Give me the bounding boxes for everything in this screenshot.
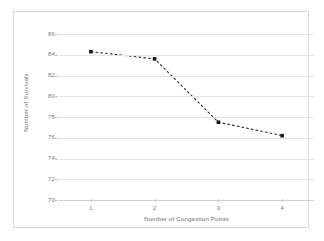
- y-tick-mark: [55, 96, 58, 97]
- y-axis-tick-labels: 868482807876747270: [27, 34, 55, 200]
- x-tick-mark: [91, 199, 92, 202]
- y-gridline: [59, 55, 314, 56]
- y-tick-mark: [55, 200, 58, 201]
- x-tick-label: 2: [145, 204, 165, 212]
- y-gridline: [59, 117, 314, 118]
- y-tick-label: 70: [29, 197, 55, 204]
- x-tick-label: 1: [81, 204, 101, 212]
- y-axis-title: Number of Survivals: [22, 43, 29, 163]
- x-tick-label: 3: [208, 204, 228, 212]
- y-tick-mark: [55, 55, 58, 56]
- x-axis-tick-labels: 1234: [59, 202, 314, 214]
- y-tick-label: 80: [29, 93, 55, 100]
- x-axis-title: Number of Congestion Points: [59, 215, 314, 222]
- chart-frame: 868482807876747270 1234 Number of Conges…: [13, 11, 309, 228]
- y-gridline: [59, 159, 314, 160]
- y-tick-label: 78: [29, 114, 55, 121]
- y-tick-label: 86: [29, 31, 55, 38]
- data-point-marker: [153, 57, 157, 61]
- y-gridline: [59, 96, 314, 97]
- y-gridline: [59, 200, 314, 201]
- y-tick-mark: [55, 34, 58, 35]
- chart-figure: 868482807876747270 1234 Number of Conges…: [0, 0, 324, 241]
- y-tick-mark: [55, 159, 58, 160]
- y-tick-label: 74: [29, 155, 55, 162]
- y-tick-label: 72: [29, 176, 55, 183]
- plot-area: [59, 34, 314, 200]
- y-gridline: [59, 179, 314, 180]
- y-gridline: [59, 138, 314, 139]
- y-tick-label: 84: [29, 51, 55, 58]
- data-point-marker: [89, 50, 93, 54]
- y-tick-label: 82: [29, 72, 55, 79]
- x-tick-label: 4: [272, 204, 292, 212]
- y-tick-mark: [55, 117, 58, 118]
- y-gridline: [59, 34, 314, 35]
- x-tick-mark: [155, 199, 156, 202]
- data-point-marker: [217, 120, 221, 124]
- y-gridline: [59, 76, 314, 77]
- y-tick-label: 76: [29, 134, 55, 141]
- y-tick-mark: [55, 179, 58, 180]
- y-tick-mark: [55, 138, 58, 139]
- y-tick-mark: [55, 76, 58, 77]
- x-tick-mark: [218, 199, 219, 202]
- data-line: [91, 52, 282, 136]
- x-tick-mark: [282, 199, 283, 202]
